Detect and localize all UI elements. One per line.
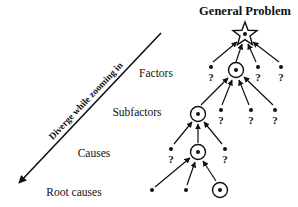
level-label-causes: Causes [78,147,111,159]
question-mark-icon: ? [255,71,261,83]
node-unknown: ? [168,147,174,165]
level-label-root-causes: Root causes [46,186,102,198]
node-general-problem [233,22,257,45]
question-mark-icon: ? [208,71,214,83]
node-unknown: ? [222,147,228,165]
nodes-root-causes [150,183,228,198]
edges-causes-to-subfactor [174,122,222,144]
node-selected [191,145,206,160]
nodes-factors: ? ? ? [208,63,284,84]
node-unknown: ? [278,65,284,83]
nodes-causes: ? ? [168,145,228,166]
node-unknown: ? [218,108,224,126]
question-mark-icon: ? [278,71,284,83]
node-unknown: ? [208,65,214,83]
node-unknown: ? [272,108,278,126]
edges-factors-to-root [213,42,279,62]
problem-tree-diagram: General Problem Diverge while zooming in… [0,0,298,207]
node-unknown: ? [248,108,254,126]
question-mark-icon: ? [222,153,228,165]
nodes-subfactors: ? ? ? [191,107,278,127]
node-selected [229,63,244,78]
node-dot [184,188,188,192]
node-unknown: ? [255,65,261,83]
diagram-title: General Problem [199,4,291,18]
question-mark-icon: ? [272,114,278,126]
level-label-subfactors: Subfactors [112,106,162,118]
question-mark-icon: ? [218,114,224,126]
diverge-axis-label: Diverge while zooming in [47,60,125,142]
edges-rootcauses-to-cause [155,158,216,187]
level-label-factors: Factors [139,67,173,79]
node-selected [213,183,228,198]
node-dot [150,188,154,192]
node-selected [191,107,206,122]
question-mark-icon: ? [248,114,254,126]
question-mark-icon: ? [168,153,174,165]
